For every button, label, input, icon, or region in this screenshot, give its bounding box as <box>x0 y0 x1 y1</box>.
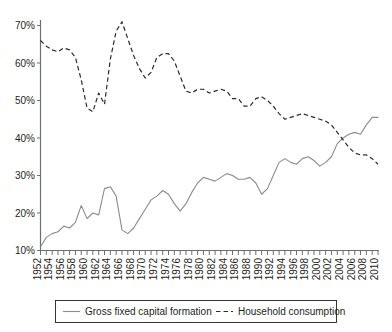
legend-label-1: Household consumption <box>238 306 345 317</box>
x-axis-tick-label: 1970 <box>136 258 147 281</box>
x-axis-tick-label: 1992 <box>264 258 275 281</box>
x-axis-tick-label: 1976 <box>171 258 182 281</box>
x-axis-tick-label: 1966 <box>113 258 124 281</box>
chart-legend: Gross fixed capital formation Household … <box>56 301 346 323</box>
x-axis-tick-label: 1982 <box>206 258 217 281</box>
x-axis-tick-label: 2006 <box>346 258 357 281</box>
y-axis-tick-label: 60% <box>15 58 35 69</box>
x-axis-tick-label: 2010 <box>369 258 380 281</box>
x-axis-tick-label: 2002 <box>322 258 333 281</box>
y-axis-tick-labels: 70%60%50%40%30%20%10% <box>15 20 35 256</box>
x-axis-tick-label: 1984 <box>218 258 229 281</box>
x-axis-tick-label: 2004 <box>334 258 345 281</box>
x-axis-tick-label: 1978 <box>183 258 194 281</box>
y-axis-tick-label: 70% <box>15 20 35 31</box>
x-axis-tick-label: 1974 <box>160 258 171 281</box>
x-axis-tick-label: 1964 <box>101 258 112 281</box>
x-axis-tick-label: 1972 <box>148 258 159 281</box>
y-axis-tick-label: 40% <box>15 133 35 144</box>
line-chart: 70%60%50%40%30%20%10% 195219541956195819… <box>0 0 392 332</box>
x-axis-tick-label: 1952 <box>32 258 43 281</box>
chart-figure: 70%60%50%40%30%20%10% 195219541956195819… <box>0 0 392 332</box>
x-axis-tick-label: 1994 <box>276 258 287 281</box>
y-axis-tick-label: 50% <box>15 95 35 106</box>
x-axis-tick-label: 2000 <box>311 258 322 281</box>
x-axis-tick-label: 1968 <box>125 258 136 281</box>
x-axis-tick-labels: 1952195419561958196019621964196619681970… <box>32 258 381 281</box>
x-axis-tick-label: 1988 <box>241 258 252 281</box>
y-axis-tick-label: 10% <box>15 245 35 256</box>
series-line-gross-fixed-capital-formation <box>41 117 379 246</box>
y-axis-tick-label: 30% <box>15 170 35 181</box>
x-axis-tick-label: 2008 <box>357 258 368 281</box>
legend-label-0: Gross fixed capital formation <box>85 306 212 317</box>
x-axis-tick-label: 1962 <box>90 258 101 281</box>
x-axis-tick-label: 1956 <box>55 258 66 281</box>
x-axis-tick-label: 1960 <box>78 258 89 281</box>
x-axis-tick-marks <box>41 251 379 256</box>
x-axis-tick-label: 1980 <box>194 258 205 281</box>
x-axis-tick-label: 1990 <box>253 258 264 281</box>
x-axis-tick-label: 1986 <box>229 258 240 281</box>
y-axis-tick-label: 20% <box>15 208 35 219</box>
x-axis-tick-label: 1958 <box>66 258 77 281</box>
x-axis-tick-label: 1998 <box>299 258 310 281</box>
x-axis-tick-label: 1996 <box>288 258 299 281</box>
series-line-household-consumption <box>41 22 379 165</box>
x-axis-tick-label: 1954 <box>43 258 54 281</box>
